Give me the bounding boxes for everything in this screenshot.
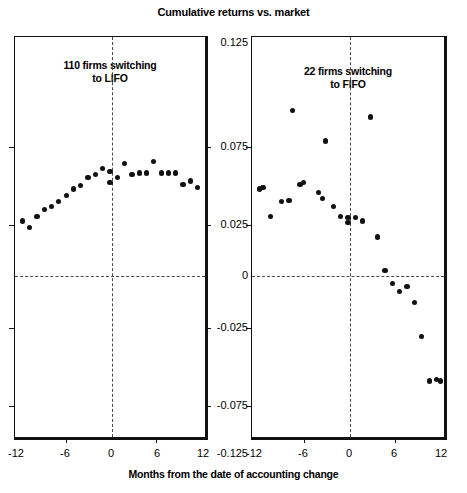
panel-caption-lifo: 110 firms switching to LIFO [15,59,205,85]
data-point [85,175,90,180]
x-axis-title: Months from the date of accounting chang… [0,468,467,480]
x-tick-neg6-lifo [66,437,67,443]
data-point [137,170,142,175]
x-axis-label-fifo-1: -6 [298,447,308,459]
x-axis-label-lifo-0: -12 [8,447,24,459]
data-point [345,220,350,225]
data-point [56,199,61,204]
data-point [173,170,178,175]
x-axis-label-fifo-0: -12 [246,447,262,459]
data-point [93,172,98,177]
panel-caption-lifo-line2: to LIFO [15,72,205,85]
data-point [42,207,47,212]
zero-return-reference-line-lifo [15,276,205,277]
zero-month-reference-line-fifo [350,37,351,437]
data-point [115,175,120,180]
data-point [260,185,265,190]
y-tick-neg0025-lifo [9,328,15,329]
data-point [71,186,76,191]
x-axis-label-lifo-3: 6 [154,447,160,459]
y-axis-label-0: 0.125 [220,36,248,48]
data-point [129,172,134,177]
data-point [338,214,343,219]
data-point [100,166,105,171]
panel-caption-lifo-line1: 110 firms switching [15,59,205,72]
x-axis-label-lifo-1: -6 [60,447,70,459]
chart-title: Cumulative returns vs. market [0,6,467,18]
data-point [180,182,185,187]
data-point [353,215,358,220]
data-point [404,284,409,289]
x-axis-label-fifo-4: 12 [435,447,447,459]
data-point [397,289,402,294]
data-point [107,180,112,185]
data-point [419,334,424,339]
y-tick-neg0075-lifo [9,406,15,407]
data-point [34,214,39,219]
data-point [390,281,395,286]
x-axis-label-lifo-4: 12 [197,447,209,459]
x-tick-6-fifo [395,437,396,443]
data-point [159,170,164,175]
panel-caption-fifo: 22 firms switching to FIFO [252,65,444,91]
panel-caption-fifo-line1: 22 firms switching [252,65,444,78]
zero-month-reference-line-lifo [112,37,113,437]
data-point [49,204,54,209]
data-point [375,234,380,239]
data-point [427,378,432,383]
x-axis-label-fifo-2: 0 [346,447,352,459]
data-point [316,190,321,195]
data-point [368,114,373,119]
x-axis-label-fifo-3: 6 [391,447,397,459]
y-tick-0075-lifo [9,147,15,148]
data-point [107,169,112,174]
data-point [382,268,387,273]
data-point [64,193,69,198]
x-axis-labels: -12 -6 0 6 12 -12 -6 0 6 12 [0,447,467,463]
data-point [323,138,328,143]
data-point [320,196,325,201]
y-axis-label-3: 0 [242,269,248,281]
data-point [20,218,25,223]
data-point [301,180,306,185]
figure-cumulative-returns: Cumulative returns vs. market 110 firms … [0,0,467,493]
data-point [331,204,336,209]
plot-panel-fifo: 22 firms switching to FIFO [251,36,447,440]
x-tick-neg6-fifo [304,437,305,443]
data-point [188,178,193,183]
data-point [195,185,200,190]
y-axis-label-5: -0.075 [217,399,248,411]
panel-caption-fifo-line2: to FIFO [252,78,444,91]
y-axis-label-4: -0.025 [217,321,248,333]
x-axis-label-lifo-2: 0 [108,447,114,459]
y-axis-label-2: 0.025 [220,218,248,230]
plot-panel-lifo: 110 firms switching to LIFO [14,36,208,440]
data-point [438,378,443,383]
data-point [166,170,171,175]
data-point [122,161,127,166]
data-point [144,170,149,175]
data-point [360,218,365,223]
data-point [268,214,273,219]
x-tick-6-lifo [156,437,157,443]
y-tick-0025-lifo [9,225,15,226]
data-point [412,300,417,305]
data-point [279,199,284,204]
zero-return-reference-line-fifo [252,276,444,277]
data-point [286,198,291,203]
data-point [290,108,295,113]
data-point [151,159,156,164]
y-axis-labels: 0.125 0.075 0.025 0 -0.025 -0.075 -0.125 [208,30,251,450]
y-axis-label-1: 0.075 [220,140,248,152]
data-point [78,183,83,188]
data-point [27,225,32,230]
